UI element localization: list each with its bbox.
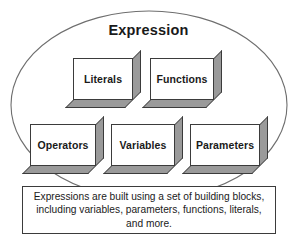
block-front-face: Variables — [111, 124, 175, 166]
block-side-face — [214, 50, 222, 100]
block-literals: Literals — [73, 58, 133, 100]
block-front-face: Operators — [30, 124, 96, 166]
block-bottom-face — [103, 166, 175, 174]
block-label: Functions — [156, 73, 207, 85]
block-side-face — [260, 116, 268, 166]
block-label: Operators — [37, 139, 88, 151]
block-bottom-face — [65, 100, 133, 108]
diagram-title: Expression — [0, 22, 297, 38]
block-parameters: Parameters — [190, 124, 260, 166]
block-functions: Functions — [150, 58, 214, 100]
block-bottom-face — [22, 166, 96, 174]
block-front-face: Parameters — [190, 124, 260, 166]
caption-text: Expressions are built using a set of bui… — [23, 190, 275, 231]
block-variables: Variables — [111, 124, 175, 166]
block-side-face — [133, 50, 141, 100]
expression-diagram: Expression Literals Functions Operators … — [0, 0, 297, 249]
block-bottom-face — [182, 166, 260, 174]
block-front-face: Functions — [150, 58, 214, 100]
block-bottom-face — [142, 100, 214, 108]
caption-box: Expressions are built using a set of bui… — [22, 186, 276, 234]
block-label: Parameters — [196, 139, 254, 151]
block-side-face — [96, 116, 104, 166]
block-side-face — [175, 116, 183, 166]
block-label: Variables — [119, 139, 166, 151]
block-operators: Operators — [30, 124, 96, 166]
block-label: Literals — [84, 73, 122, 85]
block-front-face: Literals — [73, 58, 133, 100]
